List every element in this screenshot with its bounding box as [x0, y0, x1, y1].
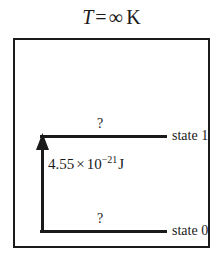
- energy-gap-mantissa: 4.55: [48, 156, 74, 172]
- title-unit: K: [123, 6, 140, 28]
- energy-gap-times-symbol: ×: [74, 156, 86, 172]
- energy-gap-base: 10: [87, 156, 102, 172]
- state-1-level-line: [40, 135, 167, 138]
- state-0-level-line: [40, 230, 167, 233]
- energy-gap-exponent: −21: [102, 154, 118, 165]
- state-1-label: state 1: [172, 128, 208, 144]
- title-variable: T: [82, 6, 93, 28]
- diagram-frame: state 1 state 0 ? ? 4.55×10−21J: [13, 38, 210, 248]
- energy-gap-arrow-icon: [33, 132, 53, 234]
- title-value: ∞: [109, 6, 124, 28]
- state-0-population-unknown: ?: [93, 212, 107, 226]
- title-equals: =: [93, 6, 108, 28]
- diagram-title: T=∞K: [0, 4, 223, 30]
- energy-gap-value: 4.55×10−21J: [48, 155, 124, 173]
- energy-gap-unit: J: [117, 156, 124, 172]
- energy-level-diagram: T=∞K state 1 state 0 ? ? 4.55×10−21J: [0, 0, 223, 256]
- state-1-population-unknown: ?: [93, 117, 107, 131]
- state-0-label: state 0: [172, 223, 208, 239]
